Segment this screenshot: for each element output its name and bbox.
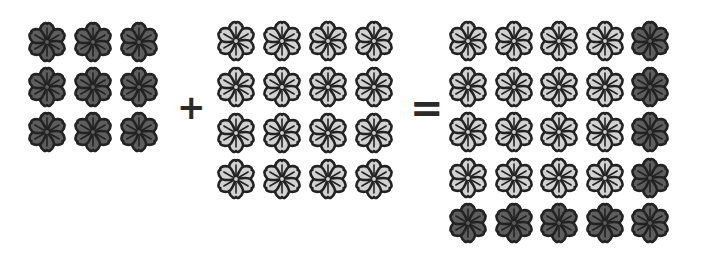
flower-grid-3x3 — [25, 20, 163, 155]
light-flower-icon — [306, 157, 352, 203]
dark-flower-icon — [492, 201, 538, 247]
dark-flower-icon — [25, 65, 71, 110]
light-flower-icon — [446, 65, 492, 111]
dark-flower-icon — [628, 201, 674, 247]
light-flower-icon — [306, 65, 352, 111]
dark-flower-icon — [583, 201, 629, 247]
dark-flower-icon — [71, 20, 117, 65]
light-flower-icon — [260, 65, 306, 111]
light-flower-icon — [352, 157, 398, 203]
light-flower-icon — [260, 111, 306, 157]
dark-flower-icon — [446, 201, 492, 247]
light-flower-icon — [214, 157, 260, 203]
light-flower-icon — [214, 19, 260, 65]
dark-flower-icon — [71, 65, 117, 110]
flower-grid-5x5 — [446, 19, 674, 247]
light-flower-icon — [492, 156, 538, 202]
light-flower-icon — [446, 19, 492, 65]
light-flower-icon — [537, 65, 583, 111]
light-flower-icon — [583, 110, 629, 156]
light-flower-icon — [446, 156, 492, 202]
light-flower-icon — [537, 110, 583, 156]
dark-flower-icon — [628, 19, 674, 65]
dark-flower-icon — [537, 201, 583, 247]
light-flower-icon — [306, 19, 352, 65]
light-flower-icon — [214, 111, 260, 157]
light-flower-icon — [583, 19, 629, 65]
equals-sign: = — [410, 88, 444, 128]
dark-flower-icon — [628, 65, 674, 111]
flower-grid-4x4 — [214, 19, 398, 203]
light-flower-icon — [260, 157, 306, 203]
dark-flower-icon — [71, 110, 117, 155]
light-flower-icon — [214, 65, 260, 111]
light-flower-icon — [583, 156, 629, 202]
dark-flower-icon — [117, 65, 163, 110]
dark-flower-icon — [628, 110, 674, 156]
dark-flower-icon — [25, 110, 71, 155]
light-flower-icon — [537, 156, 583, 202]
light-flower-icon — [492, 110, 538, 156]
light-flower-icon — [492, 19, 538, 65]
light-flower-icon — [352, 19, 398, 65]
plus-sign: + — [177, 90, 206, 124]
light-flower-icon — [352, 65, 398, 111]
dark-flower-icon — [117, 110, 163, 155]
light-flower-icon — [306, 111, 352, 157]
light-flower-icon — [446, 110, 492, 156]
light-flower-icon — [352, 111, 398, 157]
light-flower-icon — [260, 19, 306, 65]
light-flower-icon — [537, 19, 583, 65]
light-flower-icon — [583, 65, 629, 111]
dark-flower-icon — [117, 20, 163, 65]
dark-flower-icon — [25, 20, 71, 65]
dark-flower-icon — [628, 156, 674, 202]
light-flower-icon — [492, 65, 538, 111]
